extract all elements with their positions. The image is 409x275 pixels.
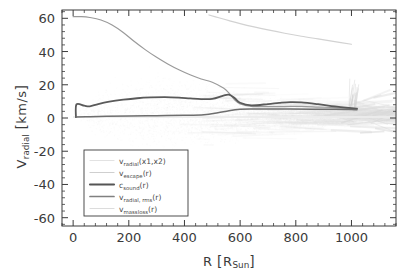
chart-figure: 020040060080010006040200-20-40-60 vradia… [0, 0, 409, 275]
legend: vradial(x1,x2)vescape(r)csound(r)vradial… [84, 150, 188, 216]
chart-canvas: 020040060080010006040200-20-40-60 vradia… [0, 0, 409, 275]
x-axis-label-text: R [RSun] [203, 254, 255, 269]
svg-text:600: 600 [228, 230, 253, 245]
svg-text:-60: -60 [34, 211, 55, 226]
svg-text:60: 60 [38, 11, 55, 26]
y-axis-label: Vradial [km/s] [13, 57, 30, 197]
svg-text:-40: -40 [34, 177, 55, 192]
svg-text:800: 800 [283, 230, 308, 245]
svg-text:1000: 1000 [335, 230, 368, 245]
svg-text:200: 200 [116, 230, 141, 245]
x-axis-label: R [RSun] [62, 253, 396, 270]
svg-text:400: 400 [172, 230, 197, 245]
svg-text:20: 20 [38, 78, 55, 93]
y-axis-label-text: Vradial [km/s] [14, 85, 29, 169]
svg-text:40: 40 [38, 45, 55, 60]
svg-text:0: 0 [69, 230, 77, 245]
svg-text:0: 0 [47, 111, 55, 126]
svg-text:-20: -20 [34, 144, 55, 159]
